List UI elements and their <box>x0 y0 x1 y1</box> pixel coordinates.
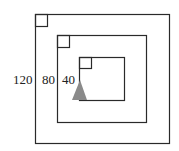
inner-square <box>80 58 125 101</box>
label-80: 80 <box>42 73 55 86</box>
outer-square <box>36 15 170 144</box>
label-120: 120 <box>13 73 33 86</box>
label-40: 40 <box>62 73 75 86</box>
inner-corner-square <box>80 58 92 69</box>
middle-corner-square <box>58 36 70 48</box>
outer-corner-square <box>36 15 48 27</box>
